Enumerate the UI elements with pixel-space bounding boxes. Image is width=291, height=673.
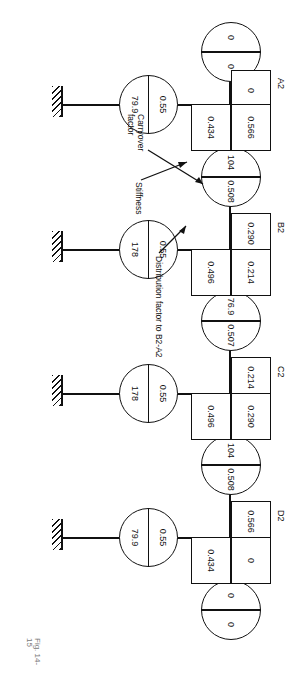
distribution-factor-note: Distribution factor to B2-A2 [153,256,163,358]
figure-caption: Fig. 14-15 [25,638,41,673]
annotation-leader-lines [0,0,291,673]
stiffness-note: Stiffness [133,182,143,214]
moment-distribution-diagram: 0 0 104 0.508 76.9 0.507 104 0.508 0 0 0… [0,0,291,673]
carryover-factor-note: Carryover factor [126,114,145,158]
